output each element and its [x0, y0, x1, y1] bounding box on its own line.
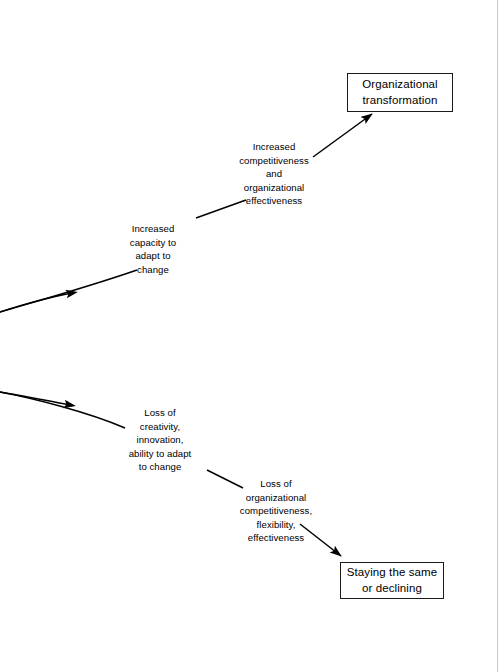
scan-edge-artifact — [497, 0, 498, 672]
label-loss-of-creativity: Loss of creativity, innovation, ability … — [104, 406, 216, 474]
node-box-staying-the-same-or-declining: Staying the same or declining — [340, 562, 444, 599]
label-loss-of-organizational-competitiveness: Loss of organizational competitiveness, … — [220, 477, 332, 545]
diagram-page: Organizational transformation Staying th… — [0, 0, 503, 672]
label-increased-capacity-to-adapt: Increased capacity to adapt to change — [101, 222, 205, 276]
node-box-organizational-transformation: Organizational transformation — [347, 73, 453, 112]
label-increased-competitiveness: Increased competitiveness and organizati… — [222, 140, 326, 208]
